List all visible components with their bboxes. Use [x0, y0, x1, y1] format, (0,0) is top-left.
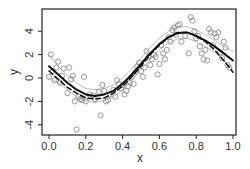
data-point: [81, 74, 86, 79]
data-point: [157, 61, 162, 66]
data-point: [46, 74, 51, 79]
data-point: [155, 72, 160, 77]
data-point: [140, 74, 145, 79]
data-point: [221, 39, 226, 44]
y-tick-label: -2: [23, 97, 35, 107]
data-point: [98, 113, 103, 118]
x-tick-label: 0.0: [41, 140, 56, 152]
x-axis-label: x: [137, 151, 143, 165]
data-point: [197, 44, 202, 49]
y-tick-label: 4: [23, 28, 35, 34]
data-point: [186, 51, 191, 56]
data-point: [183, 33, 188, 38]
x-tick-label: 0.8: [189, 140, 204, 152]
data-point: [54, 65, 59, 70]
scatter-plot: 0.00.20.40.60.81.0 -4-2024 x y: [0, 0, 250, 169]
data-point: [164, 47, 169, 52]
data-point: [61, 66, 66, 71]
x-tick-label: 0.6: [152, 140, 167, 152]
data-point: [56, 59, 61, 64]
data-point: [205, 58, 210, 63]
x-axis: 0.00.20.40.60.81.0: [41, 135, 240, 152]
data-point: [131, 81, 136, 86]
data-point: [201, 57, 206, 62]
y-tick-label: -4: [23, 120, 35, 130]
data-point: [65, 91, 70, 96]
x-tick-label: 1.0: [225, 140, 240, 152]
data-point: [96, 89, 101, 94]
x-tick-label: 0.4: [115, 140, 130, 152]
data-point: [67, 65, 72, 70]
data-points: [46, 15, 232, 133]
data-point: [74, 127, 79, 132]
y-axis: -4-2024: [23, 28, 42, 130]
data-point: [179, 39, 184, 44]
fitted-lines: [49, 32, 233, 99]
data-point: [100, 82, 105, 87]
data-point: [203, 47, 208, 52]
x-tick-label: 0.2: [78, 140, 93, 152]
data-point: [72, 99, 77, 104]
y-axis-label: y: [7, 69, 21, 75]
data-point: [162, 57, 167, 62]
y-tick-label: 0: [23, 75, 35, 81]
y-tick-label: 2: [23, 52, 35, 58]
data-point: [148, 63, 153, 68]
